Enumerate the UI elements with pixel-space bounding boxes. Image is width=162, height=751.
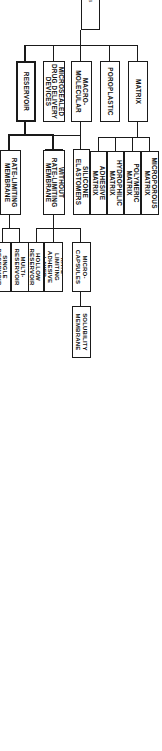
connector-matrix-to-adhesive — [98, 137, 99, 151]
node-macromolecular[interactable]: MACRO- MOLECULAR — [71, 61, 92, 122]
connector-trunk-to-microporous-branch — [137, 45, 138, 61]
node-rate-limiting-membrane-label: RATE-LIMITING MEMBRANE — [4, 157, 18, 209]
connector-macromolecular-to-silicone — [80, 135, 81, 149]
node-rate-limiting-adhesive-layer-label: RATE-LIMITING ADHESIVE LAYER — [44, 243, 63, 291]
connector-reservoir-trunk — [9, 134, 54, 136]
node-solubility-membrane[interactable]: SOLUBILITY MEMBRANE — [72, 306, 91, 358]
node-reservoir[interactable]: RESERVOIR — [16, 61, 36, 122]
connector-level2-trunk — [25, 45, 138, 46]
node-transdermal-devices-label: Transdermal Devices — [87, 0, 94, 4]
node-microporous-matrix[interactable]: MICROPOROUS MATRIX — [141, 151, 159, 215]
node-without-rate-limiting-membrane[interactable]: WITHOUT RATE-LIMITING MEMBRANE — [43, 150, 65, 215]
node-matrix-label: MATRIX — [135, 78, 142, 105]
node-hydrophilic-matrix-label: HYDROPHILIC MATRIX — [109, 159, 123, 207]
node-solubility-membrane-label: SOLUBILITY MEMBRANE — [75, 312, 88, 352]
connector-root-out — [80, 30, 81, 46]
node-rate-limiting-membrane[interactable]: RATE-LIMITING MEMBRANE — [0, 150, 21, 215]
node-macromolecular-label: MACRO- MOLECULAR — [75, 69, 89, 114]
connector-without-rlm-out — [53, 215, 54, 229]
connector-rlm-to-multi-reservoir — [19, 228, 20, 242]
node-adhesive-matrix[interactable]: ADHESIVE MATRIX — [90, 151, 107, 215]
node-transdermal-devices[interactable]: Transdermal Devices — [81, 0, 100, 30]
connector-macromolecular-trunk — [54, 135, 82, 136]
connector-without-rlm-trunk — [37, 228, 82, 229]
node-polymeric-matrix[interactable]: POLYMERIC MATRIX — [124, 151, 141, 215]
node-silicone-elastomers-label: SILICONE ELASTOMERS — [75, 158, 89, 206]
node-reservoir-label: RESERVOIR — [23, 71, 30, 112]
node-poroplastic-label: POROPLASTIC — [107, 66, 114, 116]
connector-without-rlm-to-hollow-reservoir — [36, 228, 37, 242]
node-without-rate-limiting-membrane-label: WITHOUT RATE-LIMITING MEMBRANE — [44, 157, 65, 209]
connector-matrix-to-hydrophilic — [115, 137, 116, 151]
connector-microcapsules-to-solubility — [80, 292, 81, 306]
connector-matrix-to-polymeric — [132, 137, 133, 151]
connector-trunk-to-macromolecular — [80, 45, 81, 61]
node-poroplastic[interactable]: POROPLASTIC — [100, 61, 120, 122]
node-hydrophilic-matrix[interactable]: HYDROPHILIC MATRIX — [107, 151, 124, 215]
node-hollow-reservoir-label: HOLLOW RESERVOIR — [29, 247, 42, 286]
node-microsealed-drug-delivery-devices[interactable]: MICROSEALED DRUG DELIVERY DEVICES — [43, 61, 65, 122]
connector-trunk-to-reservoir — [24, 45, 26, 61]
node-polymeric-matrix-label: POLYMERIC MATRIX — [126, 162, 140, 203]
connector-rlm-trunk — [2, 228, 20, 229]
node-micro-capsules[interactable]: MICRO- CAPSULES — [72, 242, 91, 292]
connector-matrix-trunk — [98, 137, 150, 138]
node-matrix[interactable]: MATRIX — [128, 61, 148, 122]
node-silicone-elastomers[interactable]: SILICONE ELASTOMERS — [73, 149, 90, 215]
transdermal-devices-hierarchy-diagram: Transdermal Devices MATRIX POROPLASTIC M… — [0, 0, 162, 751]
node-microporous-matrix-label: MICROPOROUS MATRIX — [143, 156, 157, 209]
node-rate-limiting-adhesive-layer[interactable]: RATE-LIMITING ADHESIVE LAYER — [44, 242, 63, 292]
node-microsealed-drug-delivery-devices-label: MICROSEALED DRUG DELIVERY DEVICES — [44, 63, 65, 120]
connector-without-rlm-to-micro-capsules — [80, 228, 81, 242]
node-multi-reservoir-label: MULTI- RESERVOIR — [14, 247, 27, 286]
connector-matrix-to-microporous — [149, 137, 150, 151]
connector-rlm-out — [9, 215, 10, 229]
node-single-reservoir-label: SINGLE RESERVOIR — [0, 247, 8, 286]
connector-trunk-to-microsealed — [53, 45, 54, 61]
node-adhesive-matrix-label: ADHESIVE MATRIX — [92, 165, 106, 201]
connector-trunk-to-poroplastic — [109, 45, 110, 61]
connector-macromolecular-out — [80, 122, 81, 136]
node-multi-reservoir[interactable]: MULTI- RESERVOIR — [11, 242, 29, 292]
node-micro-capsules-label: MICRO- CAPSULES — [75, 249, 88, 285]
connector-matrix-out — [137, 122, 138, 138]
diagram-rotator: Transdermal Devices MATRIX POROPLASTIC M… — [0, 0, 162, 751]
connector-reservoir-to-rlm — [9, 134, 11, 150]
connector-reservoir-to-without-rlm — [52, 134, 54, 150]
connector-without-rlm-to-rate-limiting-adhesive — [53, 228, 54, 242]
connector-rlm-to-single-reservoir — [2, 228, 3, 242]
node-single-reservoir[interactable]: SINGLE RESERVOIR — [0, 242, 11, 292]
